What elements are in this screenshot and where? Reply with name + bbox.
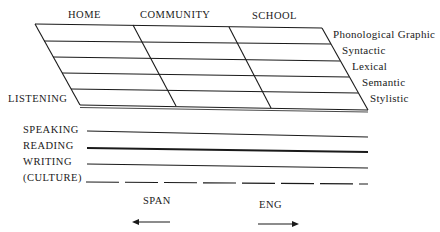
skill-label-reading: READING (23, 141, 74, 152)
column-header-home: HOME (68, 10, 101, 21)
skill-label-writing: WRITING (23, 157, 72, 168)
grid-divider-home-community (133, 25, 176, 106)
column-header-community: COMMUNITY (140, 10, 210, 21)
skill-label-speaking: SPEAKING (23, 125, 79, 136)
direction-label-span: SPAN (143, 196, 171, 207)
level-label-phonological-graphic: Phonological Graphic (333, 29, 435, 40)
level-label-stylistic: Stylistic (370, 93, 409, 104)
skill-label-culture: (CULTURE) (23, 173, 82, 184)
speaking-line (87, 131, 368, 137)
grid-line-3 (62, 73, 349, 77)
grid-line-4 (71, 89, 358, 93)
culture-dashed-line (86, 182, 368, 184)
arrow-left-icon (132, 219, 139, 225)
grid-line-top (35, 24, 322, 28)
writing-line (87, 164, 368, 168)
skill-label-listening: LISTENING (8, 94, 67, 105)
column-header-school: SCHOOL (252, 11, 297, 22)
level-label-lexical: Lexical (352, 61, 387, 72)
reading-line (87, 148, 368, 152)
grid-divider-community-school (229, 27, 271, 108)
grid-line-2 (53, 57, 340, 61)
grid-line-1 (44, 41, 331, 44)
level-label-semantic: Semantic (362, 77, 405, 88)
direction-label-eng: ENG (259, 200, 282, 211)
level-label-syntactic: Syntactic (342, 45, 386, 56)
arrow-right-icon (292, 221, 299, 227)
grid-line-bottom (80, 105, 368, 110)
